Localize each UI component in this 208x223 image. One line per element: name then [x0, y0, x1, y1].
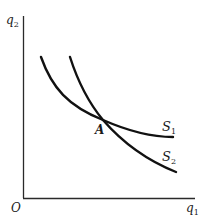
x-axis-label: q1 [186, 201, 199, 217]
curve-s2-label: S2 [162, 149, 176, 166]
intersection-label: A [94, 123, 104, 137]
y-axis-label: q2 [6, 13, 19, 29]
origin-label: O [11, 201, 21, 215]
curve-s1-label: S1 [162, 119, 176, 136]
curve-s2 [70, 57, 176, 172]
diagram-canvas: q2 O q1 A S1 S2 [0, 0, 208, 223]
